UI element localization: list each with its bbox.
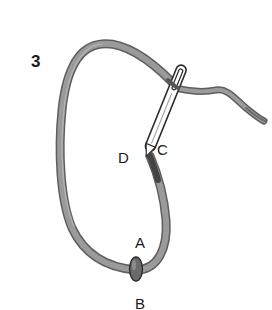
thread-entry-c (150, 156, 158, 180)
point-label-c: C (157, 142, 168, 157)
point-label-a: A (135, 235, 145, 250)
sewing-diagram: 3 D C A B (0, 0, 272, 310)
knot-bead-shine (132, 260, 136, 270)
knot-bead (130, 257, 143, 281)
step-number: 3 (31, 53, 40, 70)
point-label-d: D (118, 150, 129, 165)
thread-tail-edge (176, 88, 264, 121)
point-label-b: B (135, 296, 145, 310)
thread-loop-illustration (0, 0, 272, 310)
